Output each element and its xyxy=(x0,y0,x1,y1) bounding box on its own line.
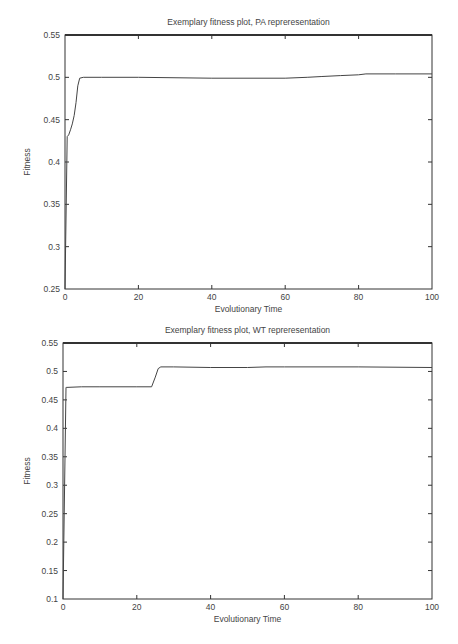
chart-title: Exemplary fitness plot, WT repreresentat… xyxy=(165,325,330,335)
x-tick-label: 80 xyxy=(353,602,363,612)
x-tick-label: 80 xyxy=(354,292,364,302)
chart-1: Exemplary fitness plot, PA repreresentat… xyxy=(22,17,439,314)
y-axis-label: Fitness xyxy=(22,148,32,175)
x-tick-label: 40 xyxy=(207,292,217,302)
y-tick-label: 0.45 xyxy=(41,395,58,405)
x-tick-label: 0 xyxy=(61,602,66,612)
x-tick-label: 100 xyxy=(425,602,439,612)
y-tick-label: 0.2 xyxy=(46,537,58,547)
y-tick-label: 0.3 xyxy=(46,480,58,490)
x-tick-label: 20 xyxy=(134,292,144,302)
x-tick-label: 0 xyxy=(63,292,68,302)
y-tick-label: 0.35 xyxy=(41,452,58,462)
fitness-line xyxy=(65,74,432,289)
y-tick-label: 0.5 xyxy=(48,72,60,82)
x-axis-label: Evolutionary Time xyxy=(214,614,282,624)
y-tick-label: 0.5 xyxy=(46,366,58,376)
x-tick-label: 60 xyxy=(280,292,290,302)
y-tick-label: 0.4 xyxy=(48,157,60,167)
plot-frame xyxy=(65,35,432,289)
x-tick-label: 40 xyxy=(206,602,216,612)
y-tick-label: 0.4 xyxy=(46,423,58,433)
plot-frame xyxy=(63,343,432,599)
y-tick-label: 0.15 xyxy=(41,566,58,576)
x-tick-label: 20 xyxy=(132,602,142,612)
y-axis-label: Fitness xyxy=(22,457,32,484)
y-tick-label: 0.1 xyxy=(46,594,58,604)
chart-2: Exemplary fitness plot, WT repreresentat… xyxy=(22,325,439,624)
y-tick-label: 0.25 xyxy=(41,509,58,519)
y-tick-label: 0.55 xyxy=(43,30,60,40)
x-tick-label: 60 xyxy=(280,602,290,612)
y-tick-label: 0.25 xyxy=(43,284,60,294)
y-tick-label: 0.55 xyxy=(41,338,58,348)
y-tick-label: 0.35 xyxy=(43,199,60,209)
y-tick-label: 0.45 xyxy=(43,115,60,125)
x-axis-label: Evolutionary Time xyxy=(215,304,283,314)
figure: Exemplary fitness plot, PA repreresentat… xyxy=(0,0,458,644)
y-tick-label: 0.3 xyxy=(48,242,60,252)
fitness-line xyxy=(63,367,432,599)
x-tick-label: 100 xyxy=(425,292,439,302)
chart-title: Exemplary fitness plot, PA repreresentat… xyxy=(167,17,330,27)
